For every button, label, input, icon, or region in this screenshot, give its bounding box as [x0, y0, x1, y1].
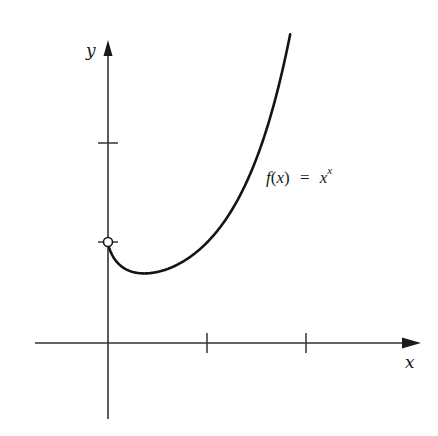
chart-canvas — [0, 0, 438, 436]
function-annotation: f(x) = xx — [266, 167, 332, 186]
x-axis-label: x — [405, 354, 415, 371]
open-point-marker — [104, 238, 113, 247]
function-curve — [108, 34, 290, 273]
y-axis-label: y — [86, 42, 96, 59]
function-argument: x — [276, 168, 284, 187]
chart-figure: y x f(x) = xx — [0, 0, 438, 436]
y-axis-arrow-icon — [104, 40, 113, 56]
function-exponent: x — [327, 164, 332, 176]
equals-sign: = — [300, 168, 310, 187]
x-axis-arrow-icon — [402, 338, 421, 349]
